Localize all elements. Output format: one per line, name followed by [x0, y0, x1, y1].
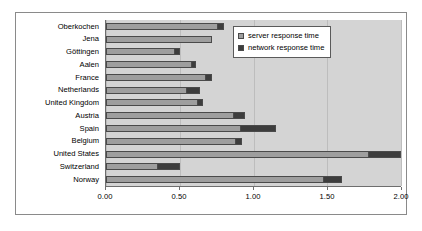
category-label: Jena [16, 33, 103, 46]
bar-segment-network [240, 126, 275, 131]
stacked-bar[interactable] [106, 163, 180, 170]
bar-segment-network [368, 152, 400, 157]
stacked-bar[interactable] [106, 48, 180, 55]
bar-segment-network [186, 88, 199, 93]
value-axis: 0.000.501.001.502.00 [105, 186, 401, 209]
axis-tick-label: 0.50 [172, 192, 187, 201]
bar-segment-server [107, 75, 205, 80]
bar-segment-network [174, 49, 178, 54]
bar-segment-server [107, 62, 191, 67]
bar-row [106, 173, 401, 186]
bar-segment-server [107, 24, 217, 29]
stacked-bar[interactable] [106, 61, 196, 68]
category-label: Switzerland [16, 160, 103, 173]
category-label: Göttingen [16, 46, 103, 59]
bar-segment-network [157, 164, 179, 169]
bar-segment-network [235, 139, 241, 144]
category-label: France [16, 71, 103, 84]
bar-segment-server [107, 177, 323, 182]
category-axis: OberkochenJenaGöttingenAalenFranceNether… [16, 20, 103, 186]
legend-item[interactable]: network response time [238, 42, 324, 54]
axis-tick-label: 0.00 [98, 192, 113, 201]
stacked-bar[interactable] [106, 87, 200, 94]
category-label: Oberkochen [16, 20, 103, 33]
axis-tick-label: 1.50 [320, 192, 335, 201]
bar-segment-server [107, 88, 186, 93]
stacked-bar[interactable] [106, 36, 212, 43]
stacked-bar[interactable] [106, 176, 342, 183]
axis-tick [179, 187, 180, 190]
axis-tick-label: 2.00 [394, 192, 409, 201]
bar-segment-server [107, 113, 233, 118]
axis-tick [105, 187, 106, 190]
gridline [401, 20, 402, 186]
category-label: United Kingdom [16, 97, 103, 110]
axis-tick [327, 187, 328, 190]
bar-segment-server [107, 152, 368, 157]
axis-tick [401, 187, 402, 190]
bar-row [106, 71, 401, 84]
bar-segment-network [197, 100, 203, 105]
bar-segment-network [217, 24, 223, 29]
bar-row [106, 135, 401, 148]
bar-row [106, 148, 401, 161]
category-label: Norway [16, 173, 103, 186]
stacked-bar[interactable] [106, 74, 212, 81]
chart-legend: server response timenetwork response tim… [233, 26, 331, 58]
stacked-bar[interactable] [106, 112, 245, 119]
category-label: Austria [16, 109, 103, 122]
category-label: Netherlands [16, 84, 103, 97]
legend-label: network response time [248, 44, 324, 52]
legend-label: server response time [248, 32, 319, 40]
axis-tick-label: 1.00 [246, 192, 261, 201]
bar-segment-server [107, 37, 211, 42]
stacked-bar[interactable] [106, 99, 203, 106]
bar-segment-server [107, 100, 197, 105]
bar-segment-network [323, 177, 341, 182]
category-label: Spain [16, 122, 103, 135]
legend-swatch-network [238, 45, 244, 51]
bar-segment-server [107, 49, 174, 54]
stacked-bar[interactable] [106, 138, 242, 145]
bar-row [106, 122, 401, 135]
legend-swatch-server [238, 33, 244, 39]
axis-tick [253, 187, 254, 190]
bar-segment-network [191, 62, 195, 67]
bar-row [106, 58, 401, 71]
stacked-bar[interactable] [106, 151, 401, 158]
legend-item[interactable]: server response time [238, 30, 324, 42]
stacked-bar[interactable] [106, 125, 276, 132]
bar-segment-server [107, 126, 240, 131]
bar-row [106, 109, 401, 122]
bar-row [106, 160, 401, 173]
category-label: Belgium [16, 135, 103, 148]
bar-row [106, 84, 401, 97]
category-label: Aalen [16, 58, 103, 71]
bar-segment-server [107, 164, 157, 169]
bar-row [106, 97, 401, 110]
bar-segment-network [233, 113, 243, 118]
stacked-bar[interactable] [106, 23, 224, 30]
bar-segment-network [205, 75, 211, 80]
bar-segment-server [107, 139, 235, 144]
chart-frame: OberkochenJenaGöttingenAalenFranceNether… [15, 12, 407, 215]
category-label: United States [16, 148, 103, 161]
